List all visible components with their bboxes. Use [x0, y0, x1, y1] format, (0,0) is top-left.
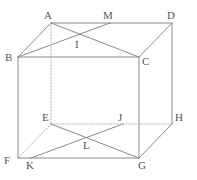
- vertex-label-g: G: [138, 160, 146, 171]
- vertex-label-i: I: [75, 39, 79, 50]
- vertex-label-m: M: [103, 10, 113, 21]
- vertex-label-h: H: [175, 112, 183, 123]
- vertex-label-l: L: [83, 140, 90, 151]
- vertex-label-j: J: [118, 112, 122, 123]
- edge-A-B: [18, 23, 51, 57]
- edge-G-H: [139, 124, 172, 158]
- cube-diagram: AMDIBCEJHLFKG: [0, 0, 197, 180]
- vertex-label-e: E: [42, 112, 49, 123]
- vertex-label-k: K: [26, 160, 34, 171]
- vertex-label-f: F: [4, 155, 10, 166]
- vertex-label-b: B: [5, 52, 12, 63]
- vertex-label-c: C: [142, 56, 149, 67]
- vertex-label-a: A: [44, 10, 52, 21]
- vertex-label-d: D: [167, 10, 175, 21]
- edge-layer: [18, 23, 172, 158]
- diagonal-J-K: [31, 124, 123, 158]
- diagonal-E-G: [51, 124, 139, 158]
- edge-D-C: [139, 23, 172, 57]
- cube-svg: [0, 0, 197, 180]
